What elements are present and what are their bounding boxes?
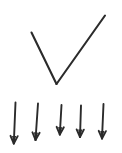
sketch-drawing — [0, 0, 122, 153]
sketch-canvas — [0, 0, 122, 153]
